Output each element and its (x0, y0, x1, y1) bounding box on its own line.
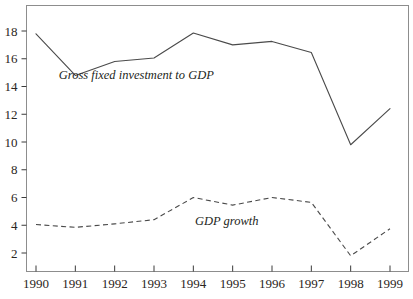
x-tick-label: 1996 (259, 276, 286, 291)
x-axis-tick-marks (36, 266, 390, 272)
y-tick-label: 6 (11, 190, 18, 205)
x-tick-label: 1997 (298, 276, 325, 291)
series-annotations-group: Gross fixed investment to GDPGDP growth (59, 68, 259, 228)
series-annotation-gross-fixed-investment-to-gdp: Gross fixed investment to GDP (59, 68, 214, 82)
series-annotation-gdp-growth: GDP growth (195, 214, 259, 228)
x-tick-label: 1998 (338, 276, 364, 291)
x-tick-label: 1991 (62, 276, 88, 291)
y-tick-label: 8 (11, 162, 18, 177)
x-tick-label: 1993 (141, 276, 167, 291)
x-tick-label: 1994 (180, 276, 207, 291)
series-line-gross-fixed-investment-to-gdp (36, 33, 390, 145)
x-tick-label: 1995 (220, 276, 246, 291)
y-tick-label: 12 (5, 107, 18, 122)
x-tick-label: 1992 (102, 276, 128, 291)
x-tick-label: 1990 (23, 276, 49, 291)
y-tick-label: 14 (5, 79, 19, 94)
plot-frame (27, 6, 409, 272)
chart-container: 24681012141618 1990199119921993199419951… (0, 0, 413, 299)
y-axis-tick-labels: 24681012141618 (5, 24, 19, 261)
plot-frame-group (27, 6, 409, 272)
y-tick-label: 2 (11, 246, 18, 261)
y-tick-label: 4 (11, 218, 18, 233)
x-tick-label: 1999 (377, 276, 403, 291)
y-tick-label: 10 (5, 135, 18, 150)
y-axis-tick-marks (22, 31, 27, 253)
y-tick-label: 16 (5, 51, 19, 66)
x-axis-tick-labels: 1990199119921993199419951996199719981999 (23, 276, 403, 291)
y-tick-label: 18 (5, 24, 18, 39)
line-chart: 24681012141618 1990199119921993199419951… (0, 0, 413, 299)
